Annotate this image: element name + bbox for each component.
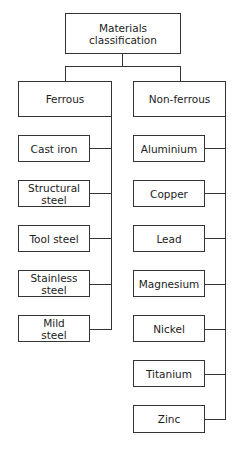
ferrous-drop	[65, 66, 66, 81]
branch	[205, 284, 225, 285]
node-nickel: Nickel	[133, 315, 205, 342]
node-tool-steel: Tool steel	[18, 225, 90, 252]
nonferrous-node: Non-ferrous	[133, 81, 226, 117]
nonferrous-spine	[225, 117, 226, 420]
ferrous-node: Ferrous	[18, 81, 112, 117]
node-lead: Lead	[133, 225, 205, 252]
node-mild-steel: Mild steel	[18, 315, 90, 342]
branch	[90, 148, 111, 149]
node-aluminium: Aluminium	[133, 135, 205, 162]
branch	[205, 419, 225, 420]
ferrous-spine	[111, 117, 112, 330]
node-stainless-steel: Stainless steel	[18, 270, 90, 297]
node-zinc: Zinc	[133, 405, 205, 433]
branch	[205, 148, 225, 149]
branch	[205, 329, 225, 330]
root-bar	[65, 66, 181, 67]
nonferrous-drop	[180, 66, 181, 81]
node-magnesium: Magnesium	[133, 270, 205, 297]
branch	[90, 238, 111, 239]
branch	[90, 284, 111, 285]
branch	[90, 329, 111, 330]
node-copper: Copper	[133, 180, 205, 207]
node-structural-steel: Structural steel	[18, 180, 90, 207]
node-titanium: Titanium	[133, 360, 205, 387]
root-stem	[122, 54, 123, 66]
branch	[205, 193, 225, 194]
root-node: Materials classification	[65, 13, 181, 54]
branch	[90, 193, 111, 194]
branch	[205, 238, 225, 239]
branch	[205, 374, 225, 375]
node-cast-iron: Cast iron	[18, 135, 90, 162]
